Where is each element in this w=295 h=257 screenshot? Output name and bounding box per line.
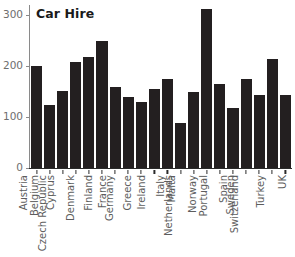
bar <box>122 97 135 168</box>
y-tick-label: 0 <box>16 161 23 173</box>
bar <box>82 57 95 168</box>
x-tick-label: Austria <box>19 175 29 210</box>
bar <box>69 62 82 168</box>
x-tick-mark <box>232 170 233 174</box>
x-tick-mark <box>272 170 273 174</box>
x-tick-mark <box>154 170 155 174</box>
x-tick-label: Norway <box>188 175 198 213</box>
x-tick-label: Greece <box>123 175 133 211</box>
y-tick-mark <box>26 15 30 16</box>
bar-series <box>30 5 292 168</box>
x-tick-label: Denmark <box>66 175 76 221</box>
x-label-cell: Sweden <box>240 170 253 257</box>
x-axis-labels: AustriaBelgiumCyprusCzech RepublicDenmar… <box>30 170 292 257</box>
x-tick-mark <box>245 170 246 174</box>
x-tick-mark <box>75 170 76 174</box>
x-tick-mark <box>167 170 168 174</box>
bar <box>30 66 43 168</box>
y-axis-ticks: 0100200300 <box>0 0 30 257</box>
x-tick-mark <box>36 170 37 174</box>
bar <box>240 79 253 168</box>
bar <box>43 105 56 168</box>
bar <box>266 59 279 168</box>
bar <box>56 91 69 168</box>
x-label-cell: UK <box>279 170 292 257</box>
x-tick-label: Portugal <box>199 175 209 216</box>
bar <box>161 79 174 168</box>
bar <box>226 108 239 168</box>
y-tick-mark <box>26 66 30 67</box>
x-tick-label: Czech Republic <box>38 175 48 251</box>
x-tick-label: UK <box>278 175 288 189</box>
x-tick-label: Finland <box>84 175 94 211</box>
bar <box>253 95 266 168</box>
x-tick-mark <box>285 170 286 174</box>
x-tick-mark <box>49 170 50 174</box>
x-tick-mark <box>128 170 129 174</box>
bar <box>135 102 148 168</box>
y-tick-label: 100 <box>3 110 23 122</box>
bar <box>187 92 200 168</box>
bar <box>279 95 292 168</box>
x-tick-mark <box>206 170 207 174</box>
bar <box>95 41 108 168</box>
x-tick-mark <box>141 170 142 174</box>
x-tick-label: Turkey <box>256 175 266 208</box>
x-tick-label: Netherlands <box>163 175 173 236</box>
bar <box>213 84 226 168</box>
bar <box>174 123 187 168</box>
x-tick-label: Germany <box>105 175 115 221</box>
x-tick-mark <box>259 170 260 174</box>
x-tick-label: Switzerland <box>230 175 240 233</box>
bar <box>200 9 213 168</box>
y-tick-label: 300 <box>3 8 23 20</box>
x-tick-mark <box>62 170 63 174</box>
bar <box>148 89 161 168</box>
y-tick-mark <box>26 117 30 118</box>
x-tick-mark <box>180 170 181 174</box>
x-tick-mark <box>88 170 89 174</box>
x-tick-label: Ireland <box>137 175 147 210</box>
y-tick-label: 200 <box>3 59 23 71</box>
x-tick-mark <box>219 170 220 174</box>
bar <box>109 87 122 169</box>
bar-chart: Car Hire 0100200300 AustriaBelgiumCyprus… <box>0 0 295 257</box>
x-tick-mark <box>101 170 102 174</box>
x-label-cell: Malta <box>174 170 187 257</box>
x-tick-mark <box>193 170 194 174</box>
x-tick-mark <box>115 170 116 174</box>
